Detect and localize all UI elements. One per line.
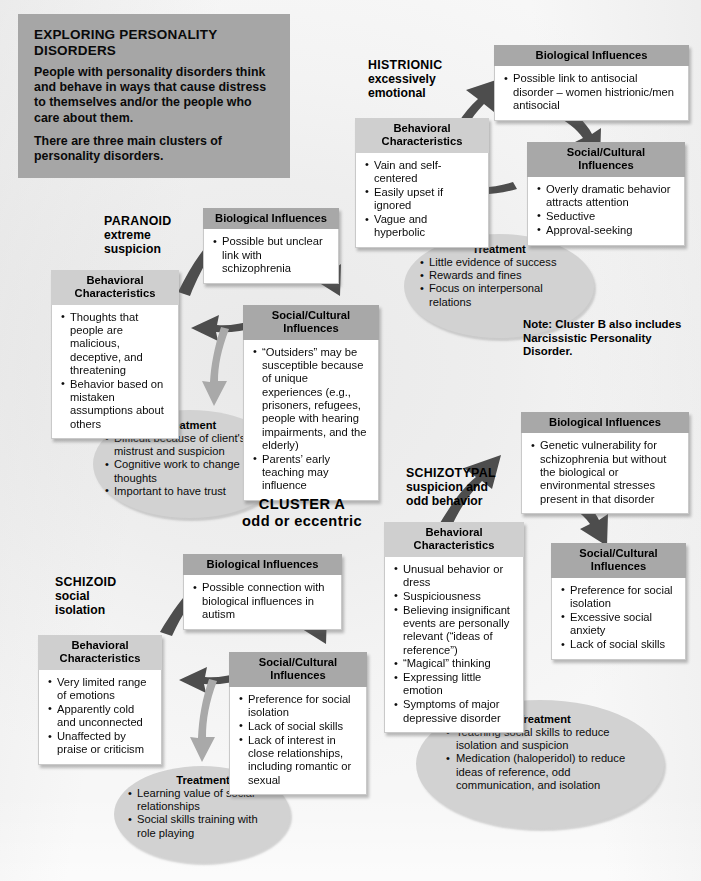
card-body: Vain and self-centered Easily upset if i… (355, 153, 489, 248)
list-item: Overly dramatic behavior attracts attent… (537, 183, 676, 210)
card-header-biological: Biological Influences (183, 554, 342, 575)
list-item: Possible link to antisocial disorder – w… (504, 72, 680, 112)
schizoid-biological-card: Biological Influences Possible connectio… (183, 554, 342, 630)
list-item: Lack of interest in close relationships,… (239, 734, 358, 787)
disorder-label-paranoid: PARANOID extreme suspicion (104, 214, 172, 257)
bullet-list: Little evidence of success Rewards and f… (420, 256, 578, 309)
title-paragraph-1: People with personality disorders think … (34, 65, 276, 126)
bullet-list: Very limited range of emotions Apparentl… (48, 676, 153, 757)
paranoid-social-card: Social/Cultural Influences “Outsiders” m… (243, 305, 379, 501)
card-header-biological: Biological Influences (494, 45, 689, 66)
list-item: Possible but unclear link with schizophr… (213, 235, 330, 275)
list-item: Unaffected by praise or criticism (48, 730, 153, 757)
social-header-line2: Influences (531, 159, 681, 172)
bullet-list: Preference for social isolation Lack of … (239, 693, 358, 787)
card-header-social: Social/Cultural Influences (229, 652, 367, 687)
schizoid-desc-1: social (55, 589, 117, 603)
list-item: Behavior based on mistaken assumptions a… (61, 378, 170, 431)
list-item: Suspiciousness (394, 590, 515, 603)
cluster-b-note: Note: Cluster B also includes Narcissist… (523, 318, 688, 359)
schizotypal-social-card: Social/Cultural Influences Preference fo… (551, 543, 686, 660)
disorder-label-schizoid: SCHIZOID social isolation (55, 575, 117, 618)
card-body: Preference for social isolation Excessiv… (551, 578, 686, 660)
card-body: Very limited range of emotions Apparentl… (38, 670, 162, 765)
bullet-list: Possible link to antisocial disorder – w… (504, 72, 680, 112)
schizotypal-name: SCHIZOTYPAL (406, 466, 496, 480)
list-item: Vain and self-centered (365, 159, 480, 186)
cluster-a-line2: odd or eccentric (212, 513, 392, 530)
page-title: EXPLORING PERSONALITY DISORDERS (34, 27, 276, 58)
list-item: “Outsiders” may be susceptible because o… (253, 346, 370, 452)
schizoid-behavioral-card: Behavioral Characteristics Very limited … (38, 635, 162, 765)
card-body: Possible but unclear link with schizophr… (203, 229, 339, 283)
bullet-list: Possible connection with biological infl… (193, 581, 333, 621)
behavioral-header-line1: Behavioral (42, 639, 158, 652)
list-item: Thoughts that people are malicious, dece… (61, 311, 170, 377)
card-header-biological: Biological Influences (203, 208, 339, 229)
list-item: Unusual behavior or dress (394, 563, 515, 590)
bullet-list: “Outsiders” may be susceptible because o… (253, 346, 370, 493)
bullet-list: Vain and self-centered Easily upset if i… (365, 159, 480, 240)
card-body: Preference for social isolation Lack of … (229, 687, 367, 796)
schizoid-social-card: Social/Cultural Influences Preference fo… (229, 652, 367, 795)
card-body: Possible link to antisocial disorder – w… (494, 66, 689, 120)
list-item: Preference for social isolation (239, 693, 358, 720)
bullet-list: Preference for social isolation Excessiv… (561, 584, 677, 651)
disorder-label-schizotypal: SCHIZOTYPAL suspicion and odd behavior (406, 466, 496, 509)
list-item: Preference for social isolation (561, 584, 677, 611)
card-header-biological: Biological Influences (521, 412, 689, 433)
list-item: Vague and hyperbolic (365, 213, 480, 240)
cluster-a-line1: CLUSTER A (212, 496, 392, 513)
list-item: Easily upset if ignored (365, 186, 480, 213)
bullet-list: Genetic vulnerability for schizophrenia … (531, 439, 680, 505)
bullet-list: Unusual behavior or dress Suspiciousness… (394, 563, 515, 725)
list-item: Lack of social skills (239, 720, 358, 733)
histrionic-desc-1: excessively (368, 72, 443, 86)
paranoid-desc-1: extreme (104, 228, 172, 242)
social-header-line1: Social/Cultural (247, 309, 375, 322)
list-item: Genetic vulnerability for schizophrenia … (531, 439, 680, 505)
behavioral-header-line2: Characteristics (388, 539, 520, 552)
behavioral-header-line2: Characteristics (42, 652, 158, 665)
list-item: Approval-seeking (537, 224, 676, 237)
histrionic-social-card: Social/Cultural Influences Overly dramat… (527, 142, 685, 246)
behavioral-header-line2: Characteristics (359, 135, 485, 148)
disorder-label-histrionic: HISTRIONIC excessively emotional (368, 58, 443, 101)
schizotypal-biological-card: Biological Influences Genetic vulnerabil… (521, 412, 689, 514)
histrionic-biological-card: Biological Influences Possible link to a… (494, 45, 689, 121)
card-body: Overly dramatic behavior attracts attent… (527, 177, 685, 246)
list-item: Lack of social skills (561, 638, 677, 651)
schizoid-desc-2: isolation (55, 603, 117, 617)
schizoid-name: SCHIZOID (55, 575, 117, 589)
card-header-behavioral: Behavioral Characteristics (51, 270, 179, 305)
list-item: Focus on interpersonal relations (420, 282, 578, 308)
card-body: Possible connection with biological infl… (183, 575, 342, 629)
histrionic-name: HISTRIONIC (368, 58, 443, 72)
card-header-behavioral: Behavioral Characteristics (38, 635, 162, 670)
card-header-behavioral: Behavioral Characteristics (384, 522, 524, 557)
social-header-line1: Social/Cultural (531, 146, 681, 159)
card-body: Genetic vulnerability for schizophrenia … (521, 433, 689, 514)
list-item: Social skills training with role playing (128, 813, 278, 839)
list-item: Possible connection with biological infl… (193, 581, 333, 621)
list-item: Medication (haloperidol) to reduce ideas… (446, 752, 642, 792)
card-header-social: Social/Cultural Influences (527, 142, 685, 177)
list-item: “Magical” thinking (394, 657, 515, 670)
list-item: Apparently cold and unconnected (48, 703, 153, 730)
cluster-a-label: CLUSTER A odd or eccentric (212, 496, 392, 530)
paranoid-biological-card: Biological Influences Possible but uncle… (203, 208, 339, 284)
list-item: Believing insignificant events are perso… (394, 604, 515, 657)
behavioral-header-line2: Characteristics (55, 287, 175, 300)
list-item: Little evidence of success (420, 256, 578, 269)
histrionic-desc-2: emotional (368, 86, 443, 100)
title-paragraph-2: There are three main clusters of persona… (34, 134, 276, 164)
paranoid-behavioral-card: Behavioral Characteristics Thoughts that… (51, 270, 179, 439)
behavioral-header-line1: Behavioral (359, 122, 485, 135)
bullet-list: Thoughts that people are malicious, dece… (61, 311, 170, 431)
card-body: Thoughts that people are malicious, dece… (51, 305, 179, 440)
list-item: Parents’ early teaching may influence (253, 453, 370, 493)
schizotypal-desc-2: odd behavior (406, 494, 496, 508)
card-header-social: Social/Cultural Influences (551, 543, 686, 578)
social-header-line2: Influences (233, 669, 363, 682)
behavioral-header-line1: Behavioral (55, 274, 175, 287)
